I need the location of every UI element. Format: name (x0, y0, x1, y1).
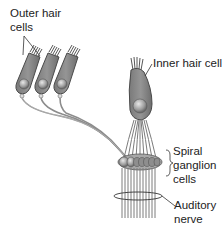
inner-hair-cell (129, 57, 152, 120)
outer-hair-cell-3 (54, 45, 80, 98)
cochlear-innervation-diagram (0, 0, 224, 228)
inner-hair-cell-label: Inner hair cell (153, 56, 222, 70)
spiral-ganglion-bracket (166, 150, 173, 176)
outer-hair-cell-fibers (22, 98, 130, 162)
spiral-ganglion (118, 154, 162, 170)
spiral-ganglion-cells-label: Spiral ganglion cells (173, 144, 216, 186)
inner-hair-cell-fibers (124, 120, 156, 158)
auditory-nerve-fibers (122, 168, 155, 218)
outer-hair-cells-label: Outer hair cells (10, 6, 61, 34)
inner-hair-cell-pointer (145, 64, 152, 76)
auditory-nerve-label: Auditory nerve (174, 198, 216, 226)
